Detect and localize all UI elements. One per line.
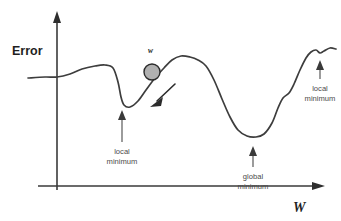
descent-arrow-shaft	[157, 84, 175, 101]
local-minimum-right-label-line1: local	[312, 84, 328, 93]
weight-marker-group: w	[144, 46, 160, 80]
local-minimum-left-label-line1: local	[114, 147, 130, 156]
global-minimum-callout-arrowhead	[249, 146, 257, 156]
global-minimum-label-line2: minimum	[238, 182, 269, 191]
weight-marker-label: w	[148, 46, 154, 55]
y-axis-label: Error	[12, 44, 43, 58]
y-axis-arrowhead	[53, 11, 61, 23]
global-minimum-label-line1: global	[243, 172, 264, 181]
error-curve-group	[28, 48, 336, 137]
local-minimum-left-label-line2: minimum	[107, 157, 138, 166]
x-axis-arrowhead	[312, 182, 325, 190]
weight-ball-marker	[144, 64, 160, 80]
error-surface-svg: Error W w local minimum global	[0, 0, 341, 221]
local-minimum-left-callout-arrowhead	[118, 110, 126, 120]
annotation-local-minimum-right: local minimum	[305, 60, 336, 103]
error-surface-figure: Error W w local minimum global	[0, 0, 341, 221]
local-minimum-right-label-line2: minimum	[305, 94, 336, 103]
x-axis-label: W	[293, 200, 307, 215]
error-curve	[28, 48, 336, 137]
descent-arrow-head	[150, 97, 163, 107]
axes-group: Error W	[12, 11, 325, 215]
annotation-global-minimum: global minimum	[238, 146, 269, 191]
local-minimum-right-callout-arrowhead	[316, 60, 324, 70]
gradient-descent-arrow	[150, 84, 175, 107]
annotation-local-minimum-left: local minimum	[107, 110, 138, 166]
